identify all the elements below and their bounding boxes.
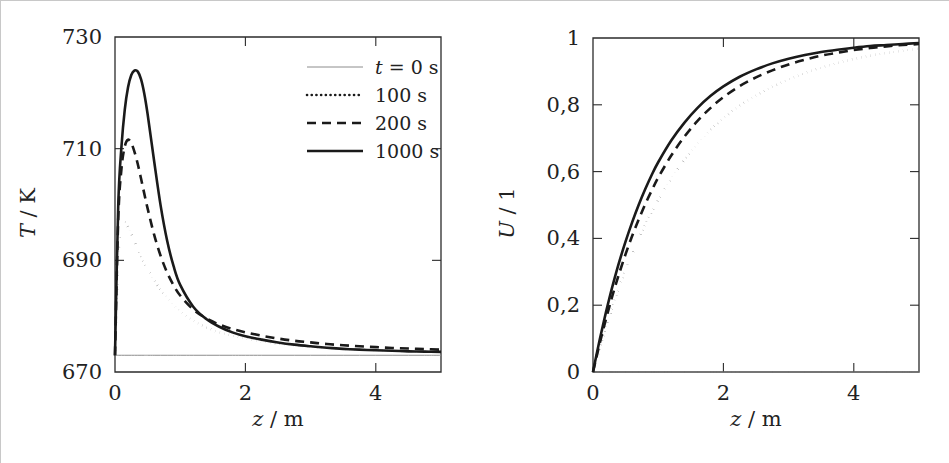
conversion-x-ticks xyxy=(723,38,853,372)
curve-dashed xyxy=(115,140,441,356)
u-x-tick-label: 4 xyxy=(847,381,860,405)
t-x-tick-label: 2 xyxy=(239,381,252,405)
u-x-tick-label: 0 xyxy=(586,381,599,405)
temperature-x-ticks xyxy=(245,37,375,372)
u-y-tick-label: 0,6 xyxy=(547,160,580,184)
temperature-panel: 024 670690710730 z / m T / K t = 0 s100 … xyxy=(16,25,441,431)
u-y-tick-label: 0,4 xyxy=(547,226,580,250)
figure-canvas: 024 670690710730 z / m T / K t = 0 s100 … xyxy=(1,1,949,463)
conversion-y-tick-labels: 00,20,40,60,81 xyxy=(547,26,580,384)
u-y-tick-label: 1 xyxy=(567,26,580,50)
t-y-tick-label: 690 xyxy=(62,248,102,272)
legend-label: t = 0 s xyxy=(375,56,439,78)
figure-root: 024 670690710730 z / m T / K t = 0 s100 … xyxy=(0,0,949,463)
legend-label: 200 s xyxy=(375,112,427,134)
t-y-tick-label: 670 xyxy=(62,360,102,384)
u-y-tick-label: 0 xyxy=(567,360,580,384)
u-y-tick-label: 0,8 xyxy=(547,93,580,117)
t-x-tick-label: 4 xyxy=(369,381,382,405)
conversion-x-tick-labels: 024 xyxy=(586,381,860,405)
curve-thick-solid xyxy=(593,43,919,372)
conversion-y-ticks xyxy=(593,105,919,305)
u-y-tick-label: 0,2 xyxy=(547,293,580,317)
curve-dashed xyxy=(593,44,919,372)
conversion-curves xyxy=(593,43,919,372)
temperature-legend: t = 0 s100 s200 s1000 s xyxy=(307,56,439,162)
legend-label: 1000 s xyxy=(375,140,439,162)
curve-dotted xyxy=(115,222,441,355)
conversion-panel: 024 00,20,40,60,81 z / m U / 1 xyxy=(495,26,919,431)
u-x-tick-label: 2 xyxy=(717,381,730,405)
temperature-y-axis-title: T / K xyxy=(16,188,40,238)
temperature-x-tick-labels: 024 xyxy=(108,381,382,405)
temperature-y-tick-labels: 670690710730 xyxy=(62,25,102,384)
t-y-tick-label: 710 xyxy=(62,137,102,161)
temperature-x-axis-title: z / m xyxy=(251,407,304,431)
conversion-x-axis-title: z / m xyxy=(729,407,782,431)
t-y-tick-label: 730 xyxy=(62,25,102,49)
conversion-plot-frame xyxy=(593,38,919,372)
temperature-y-ticks xyxy=(115,149,441,261)
conversion-y-axis-title: U / 1 xyxy=(495,187,519,239)
t-x-tick-label: 0 xyxy=(108,381,121,405)
legend-label: 100 s xyxy=(375,84,427,106)
